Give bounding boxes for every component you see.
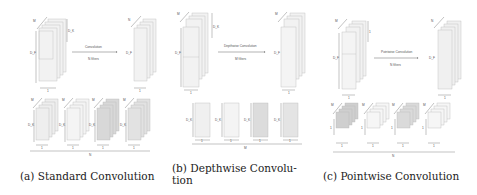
operation-label: Convolution [85, 45, 102, 49]
output-volume [281, 13, 305, 87]
operation-label: Pointwise Convolution [381, 50, 413, 54]
label-filter-height: D_K [59, 123, 66, 127]
label-filter-depth: M [423, 103, 426, 107]
filter-row: D_K1D_K1D_K1D_K1 [186, 103, 298, 143]
input-volume [183, 13, 208, 87]
filter-row: M11M11M11M11 [330, 103, 450, 148]
label-out-depth: N [431, 19, 434, 23]
label-out-width: 1 [139, 89, 141, 93]
label-out-width: 1 [444, 96, 446, 100]
label-out-depth: M [275, 12, 278, 16]
label-filter-height: D_K [120, 123, 127, 127]
filter: D_K1 [244, 103, 268, 143]
label-filter-count: N [89, 153, 92, 157]
label-filter-width: 1 [433, 144, 435, 148]
filters-label: N filters [390, 63, 401, 67]
label-filter-height: D_K [215, 118, 222, 122]
label-width: 1 [348, 96, 350, 100]
filter: D_K1 [215, 103, 239, 143]
label-filter-height: 1 [391, 126, 393, 130]
label-filter-width: 1 [201, 139, 203, 143]
label-filter-width: 1 [402, 144, 404, 148]
label-filter-depth: M [92, 98, 95, 102]
label-filter-width: 1 [341, 144, 343, 148]
filters-label: M filters [235, 57, 247, 61]
caption-standard: (a) Standard Convolution [20, 170, 154, 182]
label-filter-width: 1 [230, 139, 232, 143]
label-filter-height: D_K [186, 118, 193, 122]
filter: MD_K1 [59, 98, 89, 150]
label-kernel: D_K [213, 25, 220, 29]
filter: M11 [422, 103, 450, 148]
caption-depthwise-line1: (b) Depthwise Convolu- [172, 162, 297, 174]
label-filter-width: 1 [289, 139, 291, 143]
label-filter-depth: M [362, 103, 365, 107]
label-filter-count: N [392, 154, 395, 158]
filters-label: N filters [88, 57, 99, 61]
label-height: D_F [175, 51, 181, 55]
filter: D_K1 [274, 103, 298, 143]
label-filter-width: 1 [133, 146, 135, 150]
panel-depthwise: M D_K D_F 1 Depthwise Convolution M filt… [175, 12, 305, 150]
label-filter-height: D_K [244, 118, 251, 122]
label-filter-height: D_K [28, 123, 35, 127]
label-filter-height: D_K [89, 123, 96, 127]
filter: MD_K1 [28, 98, 58, 150]
filter: MD_K1 [120, 98, 150, 150]
label-filter-depth: M [331, 103, 334, 107]
label-height: D_F [30, 51, 36, 55]
label-width: 1 [190, 91, 192, 95]
label-filter-depth: M [123, 98, 126, 102]
label-filter-width: 1 [41, 146, 43, 150]
output-volume [438, 21, 461, 89]
operation-label: Depthwise Convolution [224, 44, 257, 48]
input-volume [39, 19, 66, 81]
label-out-height: D_F [274, 51, 280, 55]
label-depth: M [335, 19, 338, 23]
caption-pointwise: (c) Pointwise Convolution [323, 170, 459, 182]
panel-pointwise: M 1 D_F 1 Pointwise Convolution N filter… [330, 17, 461, 158]
caption-depthwise-line2: tion [172, 174, 193, 186]
label-out-height: D_F [126, 51, 132, 55]
filter: MD_K1 [89, 98, 119, 150]
output-volume [134, 19, 156, 81]
filter: M11 [361, 103, 389, 148]
label-filter-depth: M [392, 103, 395, 107]
label-depth: M [177, 12, 180, 16]
convolution-diagram: M D_K D_F 1 Convolution N filters N D_F … [0, 0, 477, 160]
label-filter-width: 1 [372, 144, 374, 148]
label-filter-depth: M [31, 98, 34, 102]
label-out-width: 1 [288, 91, 290, 95]
label-filter-count: M [244, 146, 247, 150]
label-filter-height: 1 [330, 126, 332, 130]
label-height: D_F [333, 56, 339, 60]
label-kernel: D_K [68, 29, 75, 33]
label-filter-width: 1 [72, 146, 74, 150]
label-out-height: D_F [429, 56, 435, 60]
label-filter-depth: M [62, 98, 65, 102]
label-depth: M [33, 19, 36, 23]
panel-standard: M D_K D_F 1 Convolution N filters N D_F … [28, 16, 156, 157]
label-width: 1 [47, 89, 49, 93]
label-filter-height: 1 [422, 126, 424, 130]
filter-row: MD_K1MD_K1MD_K1MD_K1 [28, 98, 150, 150]
filter: M11 [391, 103, 419, 148]
filter: M11 [330, 103, 358, 148]
label-kernel: 1 [369, 30, 371, 34]
label-filter-width: 1 [259, 139, 261, 143]
label-out-depth: N [128, 18, 131, 22]
label-filter-height: 1 [361, 126, 363, 130]
label-filter-height: D_K [274, 118, 281, 122]
input-volume [342, 21, 366, 89]
label-filter-width: 1 [102, 146, 104, 150]
filter: D_K1 [186, 103, 210, 143]
